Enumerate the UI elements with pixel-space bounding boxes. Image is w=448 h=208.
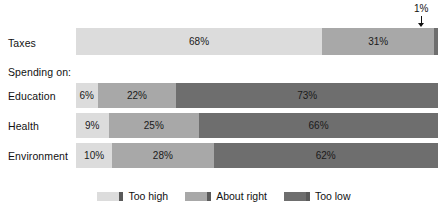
legend-label: About right <box>216 190 267 202</box>
legend-swatch-icon <box>97 192 123 201</box>
row-label-health: Health <box>8 120 39 132</box>
legend-item-1[interactable]: About right <box>185 190 267 202</box>
segment-value-label: 6% <box>80 90 94 101</box>
callout-arrow-head-icon <box>418 23 424 27</box>
segment-value-label: 73% <box>297 90 317 101</box>
legend-item-0[interactable]: Too high <box>97 190 168 202</box>
segment-value-label: 31% <box>368 36 388 47</box>
group-header-spending-on: Spending on: <box>8 66 71 78</box>
bar-segment-taxes-right: 31% <box>322 28 434 55</box>
segment-value-label: 68% <box>189 36 209 47</box>
row-label-environment: Environment <box>8 150 68 162</box>
bar-row-environment: 10%28%62% <box>76 143 438 168</box>
segment-value-label: 62% <box>316 150 336 161</box>
bar-row-health: 9%25%66% <box>76 113 438 138</box>
bar-segment-environment-high: 10% <box>76 143 112 168</box>
bar-segment-education-low: 73% <box>176 83 438 108</box>
legend-label: Too high <box>128 190 168 202</box>
segment-value-label: 25% <box>144 120 164 131</box>
segment-value-label: 22% <box>127 90 147 101</box>
segment-value-label: 28% <box>153 150 173 161</box>
legend-item-2[interactable]: Too low <box>284 190 351 202</box>
bar-segment-taxes-low <box>434 28 438 55</box>
legend-swatch-icon <box>185 192 211 201</box>
bar-segment-environment-low: 62% <box>214 143 438 168</box>
bar-segment-environment-right: 28% <box>112 143 213 168</box>
bar-row-taxes: 68%31% <box>76 28 438 55</box>
bar-segment-education-right: 22% <box>98 83 177 108</box>
bar-segment-taxes-high: 68% <box>76 28 322 55</box>
legend-swatch-icon <box>284 192 310 201</box>
callout-label-1pct: 1% <box>414 3 428 14</box>
legend: Too highAbout rightToo low <box>0 190 448 202</box>
row-label-education: Education <box>8 90 56 102</box>
bar-row-education: 6%22%73% <box>76 83 438 108</box>
bar-segment-health-low: 66% <box>199 113 438 138</box>
segment-value-label: 9% <box>85 120 99 131</box>
segment-value-label: 66% <box>309 120 329 131</box>
row-label-taxes: Taxes <box>8 37 36 49</box>
bar-segment-health-high: 9% <box>76 113 109 138</box>
segment-value-label: 10% <box>84 150 104 161</box>
bar-segment-health-right: 25% <box>109 113 200 138</box>
bar-segment-education-high: 6% <box>76 83 98 108</box>
legend-label: Too low <box>315 190 351 202</box>
stacked-bar-chart: Taxes 68%31% 1% Spending on: Education 6… <box>0 0 448 208</box>
